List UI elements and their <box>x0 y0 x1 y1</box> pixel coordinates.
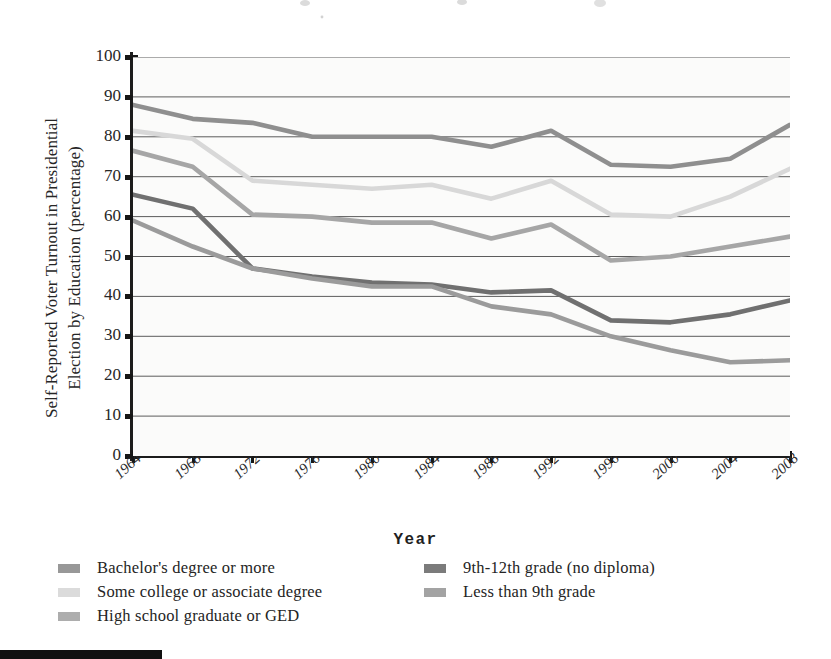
some-college-swatch <box>58 588 80 597</box>
chart-legend: Bachelor's degree or moreSome college or… <box>58 556 818 626</box>
legend-label: High school graduate or GED <box>97 606 299 626</box>
y-tick-label: 30 <box>81 325 121 345</box>
series-line <box>133 105 790 167</box>
legend-label: Some college or associate degree <box>97 582 322 602</box>
y-tick-label: 60 <box>81 206 121 226</box>
legend-entry[interactable]: Less than 9th grade <box>424 580 655 604</box>
y-tick-label: 20 <box>81 365 121 385</box>
y-tick-label: 100 <box>81 46 121 66</box>
y-tick-label: 10 <box>81 405 121 425</box>
legend-label: Bachelor's degree or more <box>97 558 275 578</box>
x-axis-title: Year <box>0 531 831 549</box>
y-tick-label: 80 <box>81 126 121 146</box>
less-than-ninth-swatch <box>424 588 446 597</box>
y-tick-label: 40 <box>81 285 121 305</box>
legend-entry[interactable]: High school graduate or GED <box>58 604 322 628</box>
high-school-swatch <box>58 612 80 621</box>
legend-column-right: 9th-12th grade (no diploma)Less than 9th… <box>424 556 655 604</box>
legend-label: 9th-12th grade (no diploma) <box>463 558 655 578</box>
plot-area <box>133 57 790 456</box>
legend-label: Less than 9th grade <box>463 582 596 602</box>
y-tick-label: 70 <box>81 166 121 186</box>
voter-turnout-line-chart: Self-Reported Voter Turnout in President… <box>0 0 831 659</box>
y-axis-title: Self-Reported Voter Turnout in President… <box>40 53 86 483</box>
legend-entry[interactable]: Some college or associate degree <box>58 580 322 604</box>
bachelors-swatch <box>58 564 80 573</box>
y-tick-label: 90 <box>81 86 121 106</box>
legend-entry[interactable]: Bachelor's degree or more <box>58 556 322 580</box>
legend-column-left: Bachelor's degree or moreSome college or… <box>58 556 322 628</box>
legend-entry[interactable]: 9th-12th grade (no diploma) <box>424 556 655 580</box>
series-line <box>133 221 790 363</box>
series-lines <box>133 57 790 456</box>
page-footer-bar <box>0 650 162 659</box>
y-tick-label: 50 <box>81 246 121 266</box>
y-tick-label: 0 <box>81 445 121 465</box>
ninth-twelfth-swatch <box>424 564 446 573</box>
